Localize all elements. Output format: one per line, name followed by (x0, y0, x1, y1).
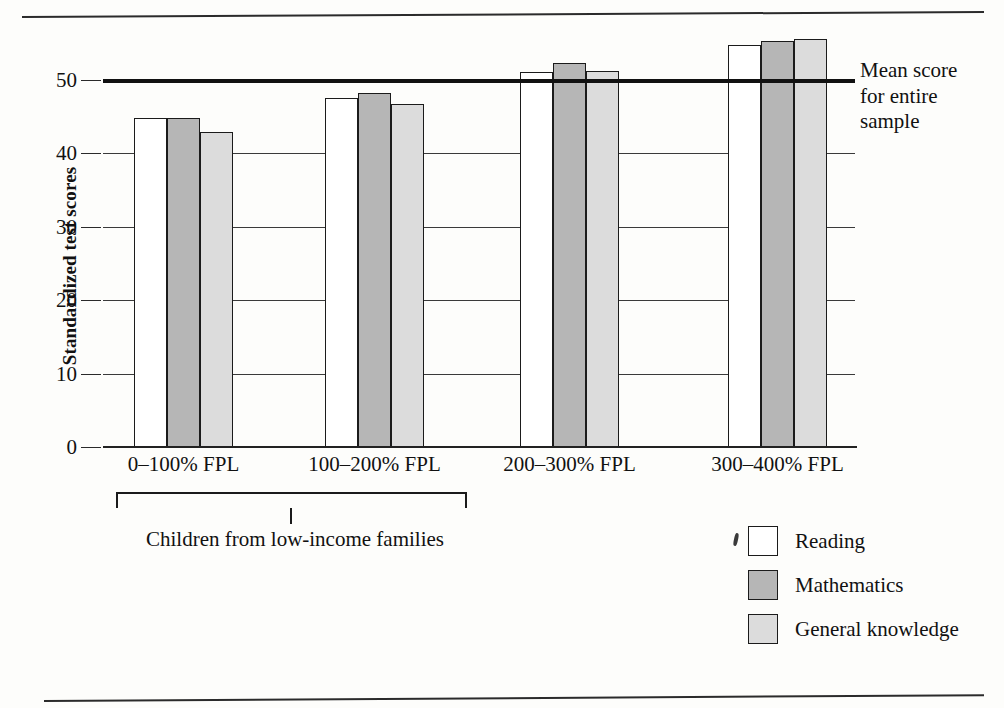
y-tick-label-20: 20 (56, 288, 77, 313)
low-income-bracket-stem (290, 508, 292, 524)
y-tick-mark-20 (81, 300, 101, 301)
y-tick-mark-40 (81, 153, 101, 154)
x-axis-label-2: 100–200% FPL (265, 452, 485, 477)
mean-score-line1: Mean score (860, 58, 1000, 84)
legend-item-reading: Reading (748, 519, 959, 563)
bar-general-group-3[interactable] (586, 71, 619, 447)
legend-item-general-knowledge: General knowledge (748, 607, 959, 651)
low-income-bracket (116, 492, 467, 508)
x-axis-label-4: 300–400% FPL (668, 452, 888, 477)
y-tick-label-30: 30 (56, 214, 77, 239)
bar-reading-group-2[interactable] (325, 98, 358, 447)
bar-reading-group-3[interactable] (520, 72, 553, 447)
bar-mathematics-group-2[interactable] (358, 93, 391, 447)
legend-label-general-knowledge: General knowledge (795, 617, 959, 642)
scan-speck (733, 533, 740, 547)
chart-legend: Reading Mathematics General knowledge (748, 519, 959, 651)
bar-group-4 (728, 80, 827, 447)
bar-group-2 (325, 80, 424, 447)
bar-chart-figure: Standardized test scores 01020304050 Mea… (0, 0, 1004, 708)
white-square-icon (748, 526, 778, 556)
light-gray-square-icon (748, 614, 778, 644)
bar-general-group-2[interactable] (391, 104, 424, 447)
y-tick-mark-30 (81, 227, 101, 228)
y-tick-mark-10 (81, 374, 101, 375)
bar-general-group-4[interactable] (794, 39, 827, 447)
mean-score-line2: for entire (860, 84, 1000, 110)
bar-group-1 (134, 80, 233, 447)
bar-mathematics-group-1[interactable] (167, 118, 200, 447)
legend-label-reading: Reading (795, 529, 865, 554)
y-axis-title: Standardized test scores (59, 136, 81, 396)
y-tick-label-40: 40 (56, 141, 77, 166)
bar-general-group-1[interactable] (200, 132, 233, 447)
y-tick-label-50: 50 (56, 68, 77, 93)
y-tick-mark-0 (81, 447, 101, 448)
low-income-bracket-label: Children from low-income families (100, 527, 490, 552)
mean-score-line (103, 79, 855, 83)
legend-item-mathematics: Mathematics (748, 563, 959, 607)
bar-reading-group-4[interactable] (728, 45, 761, 447)
legend-label-mathematics: Mathematics (795, 573, 903, 598)
x-axis-line (103, 446, 857, 448)
x-axis-label-1: 0–100% FPL (74, 452, 294, 477)
plot-area: 01020304050 (103, 80, 855, 447)
x-axis-label-3: 200–300% FPL (460, 452, 680, 477)
bar-group-3 (520, 80, 619, 447)
bar-mathematics-group-4[interactable] (761, 41, 794, 447)
y-tick-label-10: 10 (56, 361, 77, 386)
y-tick-mark-50 (81, 80, 101, 81)
bar-mathematics-group-3[interactable] (553, 63, 586, 447)
mean-score-annotation: Mean score for entire sample (860, 58, 1000, 135)
bar-reading-group-1[interactable] (134, 118, 167, 447)
dark-gray-square-icon (748, 570, 778, 600)
mean-score-line3: sample (860, 109, 1000, 135)
